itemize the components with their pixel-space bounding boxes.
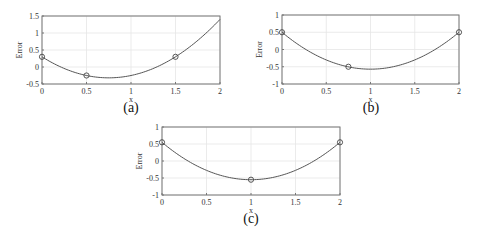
y-tick-label: 1: [155, 123, 159, 132]
y-axis-label: Error: [135, 152, 144, 169]
chart-panel-c: 00.511.52-1-0.500.51xError: [0, 0, 479, 241]
caption-c: (c): [231, 211, 271, 227]
chart-c-svg: 00.511.52-1-0.500.51xError: [0, 0, 479, 241]
y-tick-label: -0.5: [146, 174, 159, 183]
x-tick-label: 0: [160, 198, 164, 207]
x-tick-label: 1.5: [291, 198, 301, 207]
x-tick-label: 2: [338, 198, 342, 207]
x-tick-label: 0.5: [202, 198, 212, 207]
y-tick-label: 0: [155, 157, 159, 166]
y-tick-label: 0.5: [149, 140, 159, 149]
y-tick-label: -1: [152, 191, 159, 200]
